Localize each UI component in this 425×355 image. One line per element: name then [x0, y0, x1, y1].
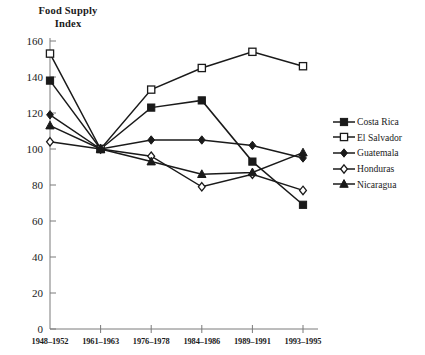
y-axis-tick-label: 40: [32, 251, 44, 263]
marker-filled-square: [340, 118, 347, 125]
marker-open-square: [148, 86, 155, 93]
chart-legend: Costa RicaEl SalvadorGuatemalaHondurasNi…: [332, 114, 424, 192]
legend-marker-filled-triangle-icon: [332, 178, 356, 190]
marker-filled-diamond: [341, 149, 348, 157]
marker-open-diamond: [300, 186, 307, 194]
marker-open-square: [299, 63, 306, 70]
y-axis-tick-label: 60: [32, 215, 44, 227]
marker-filled-square: [249, 158, 256, 165]
marker-open-square: [340, 134, 347, 141]
chart-container: Food Supply Index 2040608010012014016001…: [0, 0, 425, 355]
x-axis-tick-label: 1984–1986: [183, 337, 220, 346]
marker-filled-square: [299, 201, 306, 208]
legend-marker-open-square-icon: [332, 131, 356, 143]
marker-open-square: [46, 50, 53, 57]
series-line: [50, 52, 303, 149]
legend-label: Honduras: [357, 163, 394, 174]
x-axis-tick-label: 1961–1963: [82, 337, 119, 346]
legend-label: Nicaragua: [357, 179, 396, 190]
marker-filled-triangle: [299, 148, 307, 156]
marker-filled-diamond: [148, 136, 155, 144]
series-line: [50, 115, 303, 158]
legend-label: Guatemala: [357, 147, 399, 158]
marker-filled-diamond: [198, 136, 205, 144]
x-axis-tick-label: 1976–1978: [133, 337, 170, 346]
marker-filled-square: [198, 97, 205, 104]
legend-label: El Salvador: [357, 132, 402, 143]
marker-open-diamond: [341, 164, 348, 172]
y-axis-tick-label: 80: [32, 179, 44, 191]
x-axis-tick-label: 1948–1952: [32, 337, 69, 346]
marker-open-diamond: [198, 183, 205, 191]
legend-marker-open-diamond-icon: [332, 163, 356, 175]
legend-item-el-salvador[interactable]: El Salvador: [332, 130, 424, 146]
y-axis-tick-label: 140: [27, 71, 44, 83]
series-guatemala: [47, 111, 307, 163]
legend-item-honduras[interactable]: Honduras: [332, 161, 424, 177]
marker-open-diamond: [47, 138, 54, 146]
marker-filled-triangle: [46, 121, 54, 129]
legend-item-guatemala[interactable]: Guatemala: [332, 145, 424, 161]
y-axis-tick-label: 100: [27, 143, 44, 155]
y-axis-origin-label: 0: [38, 323, 44, 335]
marker-open-square: [249, 48, 256, 55]
y-axis-tick-label: 20: [32, 287, 44, 299]
marker-filled-diamond: [249, 141, 256, 149]
marker-open-square: [198, 64, 205, 71]
x-axis-tick-label: 1989–1991: [234, 337, 271, 346]
legend-marker-filled-square-icon: [332, 116, 356, 128]
legend-item-costa-rica[interactable]: Costa Rica: [332, 114, 424, 130]
marker-filled-square: [46, 77, 53, 84]
y-axis-tick-label: 120: [27, 107, 44, 119]
series-el-salvador: [46, 48, 306, 152]
legend-marker-filled-diamond-icon: [332, 147, 356, 159]
marker-filled-square: [148, 104, 155, 111]
y-axis-tick-label: 160: [27, 35, 44, 47]
marker-filled-diamond: [47, 111, 54, 119]
legend-item-nicaragua[interactable]: Nicaragua: [332, 176, 424, 192]
x-axis-tick-label: 1993–1995: [285, 337, 322, 346]
legend-label: Costa Rica: [357, 116, 399, 127]
